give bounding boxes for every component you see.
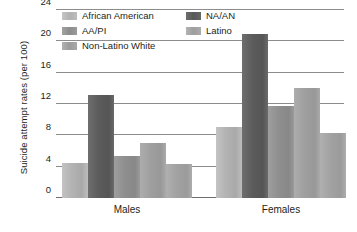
y-tick-label: 12 <box>40 91 51 101</box>
legend: African AmericanAA/PINon-Latino WhiteNA/… <box>62 11 312 57</box>
x-axis-label-females: Females <box>241 204 321 215</box>
legend-label: African American <box>82 11 154 21</box>
bar-face <box>114 156 140 198</box>
bar-face <box>242 34 268 199</box>
legend-swatch-icon <box>62 27 77 35</box>
legend-label: AA/PI <box>82 26 106 36</box>
legend-item[interactable]: Latino <box>186 26 232 36</box>
bar <box>216 127 242 198</box>
bar-face <box>216 127 242 198</box>
bar-chart: Suicide attempt rates (per 100) 04812162… <box>0 0 357 232</box>
legend-item[interactable]: Non-Latino White <box>62 41 155 51</box>
y-tick-label: 16 <box>40 60 51 70</box>
y-tick-label: 20 <box>40 28 51 38</box>
bar <box>166 164 192 198</box>
legend-swatch-icon <box>186 27 201 35</box>
bar <box>242 34 268 199</box>
y-tick-label: 0 <box>46 185 51 195</box>
legend-label: NA/AN <box>206 11 235 21</box>
bar <box>294 88 320 198</box>
legend-swatch-icon <box>62 12 77 20</box>
legend-swatch-icon <box>186 12 201 20</box>
legend-swatch-icon <box>62 42 77 50</box>
bar-face <box>268 106 294 198</box>
legend-label: Latino <box>206 26 232 36</box>
legend-item[interactable]: NA/AN <box>186 11 235 21</box>
bar <box>320 133 346 198</box>
bar <box>140 143 166 198</box>
y-tick-label: 24 <box>40 0 51 7</box>
y-tick-label: 4 <box>46 154 51 164</box>
bar-face <box>320 133 346 198</box>
legend-label: Non-Latino White <box>82 41 155 51</box>
bar-face <box>62 163 88 198</box>
bar-face <box>166 164 192 198</box>
bar-face <box>294 88 320 198</box>
y-axis-title: Suicide attempt rates (per 100) <box>18 23 29 193</box>
legend-item[interactable]: AA/PI <box>62 26 106 36</box>
bar <box>88 95 114 198</box>
legend-item[interactable]: African American <box>62 11 154 21</box>
bar <box>62 163 88 198</box>
x-axis-label-males: Males <box>87 204 167 215</box>
y-tick-label: 8 <box>46 122 51 132</box>
bar-face <box>140 143 166 198</box>
bar <box>114 156 140 198</box>
bar-face <box>88 95 114 198</box>
bar <box>268 106 294 198</box>
